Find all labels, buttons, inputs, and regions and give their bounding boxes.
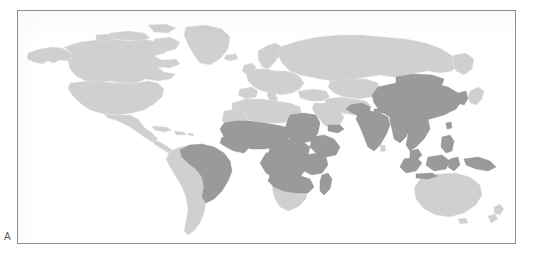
panel-label-a: A — [4, 231, 11, 243]
map-panel-frame — [17, 10, 516, 244]
region-sri-lanka — [380, 145, 386, 152]
world-choropleth-map — [18, 11, 515, 243]
figure-root: A Highlighted countries Other countries — [0, 0, 536, 254]
region-taiwan — [446, 122, 452, 129]
region-tasmania — [458, 218, 468, 224]
